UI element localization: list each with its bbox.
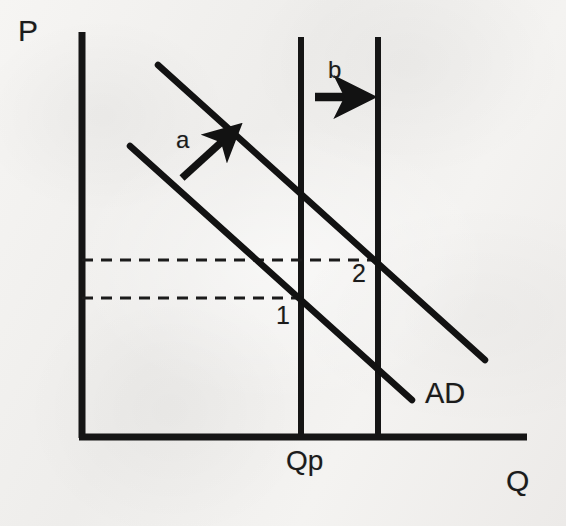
ad-curve-label: AD	[425, 379, 465, 408]
tick-label-potential-output: Qp	[286, 447, 323, 475]
equilibrium-point-1-label: 1	[276, 303, 290, 328]
ad-curve-initial	[130, 146, 412, 400]
x-axis-label: Q	[506, 466, 529, 496]
shift-arrow-a-label: a	[176, 128, 189, 152]
shift-arrow-b-label: b	[328, 58, 341, 82]
y-axis-label: P	[18, 16, 38, 46]
economics-diagram: P Q Qp AD 1 2 a b	[0, 0, 566, 526]
plot-canvas	[0, 0, 566, 526]
equilibrium-point-2-label: 2	[352, 261, 366, 286]
